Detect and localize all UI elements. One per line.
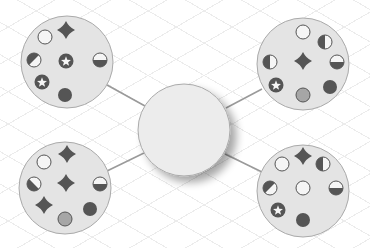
half-bottom-icon: [93, 53, 107, 67]
empty-icon: [296, 25, 310, 39]
half-left-icon: [318, 35, 332, 49]
star-badge-icon: [35, 75, 50, 90]
half-bottom-icon: [330, 55, 344, 69]
cluster-bottom-right[interactable]: [257, 145, 349, 237]
half-bottom-icon: [329, 181, 343, 195]
full-icon: [58, 88, 72, 102]
mid-icon: [58, 212, 72, 226]
mid-icon: [296, 88, 310, 102]
hub-group: [138, 84, 230, 176]
star-badge-icon: [59, 54, 74, 69]
hub-spoke-diagram: [0, 0, 370, 248]
connector-top-right: [226, 89, 262, 108]
half-diag-icon: [263, 181, 277, 195]
full-icon: [296, 213, 310, 227]
star-badge-icon: [271, 203, 286, 218]
half-diag-icon: [27, 53, 41, 67]
empty-icon: [275, 157, 289, 171]
empty-icon: [37, 155, 51, 169]
cluster-top-right[interactable]: [257, 18, 349, 110]
connector-top-left: [107, 85, 145, 106]
half-diag-rev-icon: [27, 177, 41, 191]
connector-bottom-left: [107, 153, 144, 171]
star-badge-icon: [269, 78, 284, 93]
half-bottom-icon: [93, 177, 107, 191]
half-left-icon: [263, 55, 277, 69]
empty-icon: [296, 181, 310, 195]
full-icon: [323, 80, 337, 94]
connector-bottom-right: [225, 154, 262, 172]
empty-icon: [38, 30, 52, 44]
cluster-top-left[interactable]: [21, 16, 113, 108]
full-icon: [83, 202, 97, 216]
hub-circle[interactable]: [138, 84, 230, 176]
half-left-icon: [316, 157, 330, 171]
cluster-bottom-left[interactable]: [19, 142, 111, 234]
